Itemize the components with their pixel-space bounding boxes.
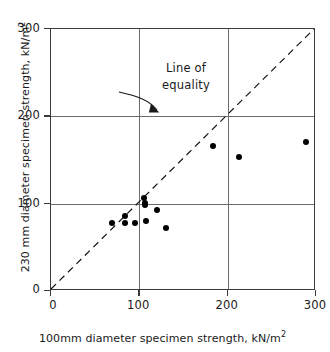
data-point — [154, 207, 160, 213]
x-tick-0 — [50, 290, 51, 296]
data-point — [132, 220, 138, 226]
y-axis-label: 230 mm diameter specimen strength, kN/m2 — [18, 22, 33, 272]
data-point — [303, 139, 309, 145]
x-tick-300 — [315, 290, 316, 296]
annotation-line-1: Line of — [148, 60, 224, 77]
data-point — [122, 220, 128, 226]
data-point — [210, 143, 216, 149]
data-point — [142, 202, 148, 208]
data-point — [122, 213, 128, 219]
data-point — [163, 225, 169, 231]
y-tick-100 — [44, 203, 50, 204]
data-point — [109, 220, 115, 226]
data-point — [236, 154, 242, 160]
x-axis-label-exponent: 2 — [281, 330, 286, 339]
x-ticklabel-300: 300 — [295, 298, 330, 312]
x-ticklabel-0: 0 — [33, 298, 73, 312]
annotation-line-2: equality — [148, 77, 224, 94]
data-point — [143, 218, 149, 224]
x-ticklabel-100: 100 — [118, 298, 158, 312]
x-axis-label: 100mm diameter specimen strength, kN/m2 — [0, 330, 325, 345]
y-axis-label-exponent: 2 — [18, 22, 27, 27]
y-tick-200 — [44, 115, 50, 116]
y-axis-label-text: 230 mm diameter specimen strength, kN/m — [19, 27, 32, 273]
x-tick-100 — [138, 290, 139, 296]
y-tick-300 — [44, 28, 50, 29]
x-ticklabel-200: 200 — [207, 298, 247, 312]
line-of-equality-annotation: Line of equality — [148, 60, 224, 94]
x-axis-label-text: 100mm diameter specimen strength, kN/m — [39, 332, 281, 345]
y-ticklabel-0: 0 — [6, 282, 40, 296]
x-tick-200 — [227, 290, 228, 296]
